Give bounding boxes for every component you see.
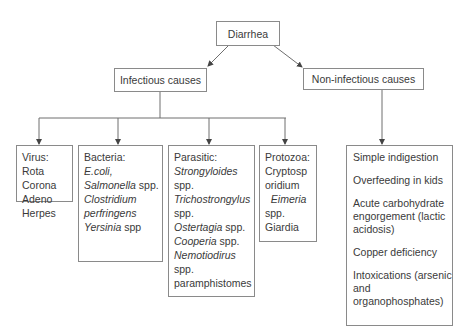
node-virus: Virus: Rota Corona Adeno Herpes [16, 145, 73, 202]
root-node-diarrhea: Diarrhea [216, 21, 280, 46]
arrow-root-to-infectious [208, 45, 229, 66]
parasitic-line: Ostertagia spp. [174, 220, 254, 234]
node-infectious-causes: Infectious causes [114, 68, 207, 92]
node-non-infectious-list: Simple indigestion Overfeeding in kids A… [346, 145, 453, 326]
protozoa-line: Cryptosp [265, 164, 316, 178]
virus-title: Virus: [22, 150, 72, 164]
parasitic-line: Strongyloides [174, 164, 254, 178]
node-bacteria: Bacteria: E.coli, Salmonella spp. Clostr… [78, 145, 163, 262]
protozoa-title: Protozoa: [265, 150, 316, 164]
parasitic-line: paramphistomes [174, 276, 254, 290]
parasitic-line: spp. [174, 206, 254, 220]
non-infectious-label: Non-infectious causes [312, 73, 415, 85]
bacteria-title: Bacteria: [84, 150, 162, 164]
root-label: Diarrhea [228, 28, 268, 40]
virus-item: Corona [22, 178, 72, 192]
bacteria-line: Yersinia spp [84, 220, 162, 234]
protozoa-line: Giardia [265, 220, 316, 234]
bacteria-line: Salmonella spp. [84, 178, 162, 192]
non-infectious-item: Copper deficiency [353, 246, 452, 259]
infectious-label: Infectious causes [120, 74, 201, 86]
protozoa-line: Eimeria [265, 192, 316, 206]
bacteria-line: perfringens [84, 206, 162, 220]
protozoa-line: oridium [265, 178, 316, 192]
parasitic-line: Nemotiodirus [174, 248, 254, 262]
node-parasitic: Parasitic: Strongyloides spp. Trichostro… [168, 145, 255, 297]
virus-item: Herpes [22, 206, 72, 220]
non-infectious-item: Intoxications (arsenic and organophospha… [353, 269, 452, 308]
parasitic-line: Cooperia spp. [174, 234, 254, 248]
parasitic-line: spp. [174, 262, 254, 276]
bacteria-line: Clostridium [84, 192, 162, 206]
non-infectious-item: Simple indigestion [353, 151, 452, 164]
parasitic-title: Parasitic: [174, 150, 254, 164]
parasitic-line: spp. [174, 178, 254, 192]
bacteria-line: E.coli, [84, 164, 162, 178]
non-infectious-item: Acute carbohydrate engorgement (lactic a… [353, 197, 452, 236]
non-infectious-item: Overfeeding in kids [353, 174, 452, 187]
node-protozoa: Protozoa: Cryptosp oridium Eimeria spp. … [259, 145, 317, 242]
virus-item: Adeno [22, 192, 72, 206]
parasitic-line: Trichostrongylus [174, 192, 254, 206]
protozoa-line: spp. [265, 206, 316, 220]
virus-item: Rota [22, 164, 72, 178]
node-non-infectious-causes: Non-infectious causes [303, 68, 424, 90]
arrow-root-to-noninfectious [273, 45, 302, 67]
